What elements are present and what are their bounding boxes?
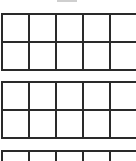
frame-cell [3, 111, 30, 137]
frame-row [3, 15, 136, 43]
frame-cell [111, 83, 136, 109]
frame-cell [57, 152, 84, 161]
frame-cell [84, 83, 111, 109]
frame-row [3, 111, 136, 139]
clipped-header-mark [57, 0, 77, 2]
frame-cell [3, 43, 30, 69]
frame-cell [84, 152, 111, 161]
frame-cell [57, 83, 84, 109]
frame-cell [30, 111, 57, 137]
frame-cell [57, 111, 84, 137]
ten-frame-3 [1, 150, 136, 161]
frame-cell [30, 83, 57, 109]
frame-cell [111, 111, 136, 137]
frame-cell [84, 15, 111, 41]
frame-cell [30, 43, 57, 69]
frame-cell [3, 15, 30, 41]
frame-row [3, 43, 136, 71]
frame-row [3, 83, 136, 111]
frame-cell [111, 43, 136, 69]
frame-cell [3, 83, 30, 109]
frame-cell [111, 15, 136, 41]
frame-cell [57, 43, 84, 69]
frame-cell [30, 152, 57, 161]
frame-cell [57, 15, 84, 41]
frame-cell [3, 152, 30, 161]
ten-frame-1 [1, 13, 136, 71]
frame-cell [111, 152, 136, 161]
frame-cell [84, 43, 111, 69]
ten-frame-2 [1, 81, 136, 139]
frame-cell [84, 111, 111, 137]
frame-row [3, 152, 136, 161]
frame-cell [30, 15, 57, 41]
